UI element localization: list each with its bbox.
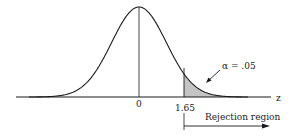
normal-curve — [29, 7, 248, 97]
rejection-region-label: Rejection region — [205, 112, 281, 122]
critical-tick-label: 1.65 — [175, 103, 195, 113]
normal-distribution-chart: z 0 1.65 α = .05 Rejection region — [0, 0, 296, 140]
z-axis-label: z — [276, 93, 281, 103]
alpha-label: α = .05 — [222, 61, 256, 71]
rejection-arrowhead — [262, 124, 270, 129]
mean-tick-label: 0 — [136, 99, 142, 109]
